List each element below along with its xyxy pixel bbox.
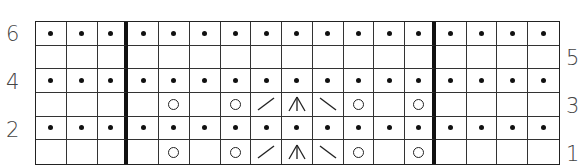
chart-cell — [436, 140, 467, 164]
chart-grid — [35, 21, 560, 165]
chart-cell — [528, 46, 559, 70]
purl-dot-icon — [141, 125, 146, 130]
purl-dot-icon — [356, 125, 361, 130]
purl-dot-icon — [108, 125, 113, 130]
purl-dot-icon — [325, 31, 330, 36]
purl-dot-icon — [48, 31, 53, 36]
purl-dot-icon — [541, 78, 546, 83]
chart-cell — [405, 69, 436, 93]
yarn-over-circle-icon — [230, 99, 241, 110]
chart-cell — [374, 69, 405, 93]
chart-cell — [497, 140, 528, 164]
chart-cell — [36, 93, 67, 117]
chart-cell — [190, 93, 221, 117]
purl-dot-icon — [448, 31, 453, 36]
chart-cell — [128, 117, 159, 141]
purl-dot-icon — [79, 78, 84, 83]
purl-dot-icon — [79, 125, 84, 130]
purl-dot-icon — [541, 125, 546, 130]
purl-dot-icon — [171, 78, 176, 83]
purl-dot-icon — [202, 31, 207, 36]
chart-cell — [528, 140, 559, 164]
chart-cell — [67, 22, 98, 46]
chart-cell — [98, 69, 129, 93]
row-label-6: 6 — [6, 24, 19, 45]
purl-dot-icon — [510, 78, 515, 83]
purl-dot-icon — [171, 31, 176, 36]
chart-cell — [282, 93, 313, 117]
chart-cell — [313, 140, 344, 164]
chart-cell — [36, 22, 67, 46]
chart-cell — [405, 22, 436, 46]
double-decrease-icon — [287, 144, 307, 160]
chart-cell — [528, 93, 559, 117]
purl-dot-icon — [108, 78, 113, 83]
chart-cell — [313, 117, 344, 141]
row-label-3: 3 — [566, 96, 579, 117]
chart-cell — [159, 69, 190, 93]
chart-cell — [374, 93, 405, 117]
purl-dot-icon — [356, 31, 361, 36]
chart-cell — [98, 22, 129, 46]
chart-cell — [159, 117, 190, 141]
yarn-over-circle-icon — [230, 147, 241, 158]
double-decrease-icon — [287, 96, 307, 112]
chart-cell — [497, 117, 528, 141]
purl-dot-icon — [325, 125, 330, 130]
chart-cell — [251, 46, 282, 70]
purl-dot-icon — [356, 78, 361, 83]
chart-cell — [251, 117, 282, 141]
chart-cell — [67, 117, 98, 141]
purl-dot-icon — [294, 78, 299, 83]
chart-cell — [436, 69, 467, 93]
purl-dot-icon — [108, 31, 113, 36]
chart-cell — [374, 117, 405, 141]
chart-cell — [128, 46, 159, 70]
chart-cell — [159, 22, 190, 46]
purl-dot-icon — [479, 31, 484, 36]
chart-cell — [128, 140, 159, 164]
chart-cell — [528, 117, 559, 141]
chart-cell — [344, 22, 375, 46]
chart-cell — [190, 69, 221, 93]
yarn-over-circle-icon — [168, 147, 179, 158]
chart-cell — [190, 46, 221, 70]
chart-cell — [467, 117, 498, 141]
chart-cell — [98, 93, 129, 117]
chart-cell — [497, 93, 528, 117]
chart-cell — [36, 140, 67, 164]
chart-cell — [98, 117, 129, 141]
chart-cell — [282, 140, 313, 164]
chart-cell — [497, 46, 528, 70]
knitting-chart — [35, 21, 560, 165]
purl-dot-icon — [264, 78, 269, 83]
purl-dot-icon — [48, 125, 53, 130]
chart-cell — [467, 69, 498, 93]
yarn-over-circle-icon — [413, 99, 424, 110]
purl-dot-icon — [141, 78, 146, 83]
chart-cell — [251, 93, 282, 117]
purl-dot-icon — [141, 31, 146, 36]
chart-cell — [374, 46, 405, 70]
purl-dot-icon — [171, 125, 176, 130]
purl-dot-icon — [264, 125, 269, 130]
chart-cell — [405, 140, 436, 164]
chart-cell — [98, 140, 129, 164]
chart-cell — [467, 140, 498, 164]
chart-cell — [159, 140, 190, 164]
chart-cell — [251, 140, 282, 164]
chart-cell — [159, 93, 190, 117]
chart-cell — [344, 69, 375, 93]
ssk-slash-icon — [318, 96, 338, 112]
chart-cell — [436, 93, 467, 117]
chart-cell — [67, 46, 98, 70]
chart-cell — [344, 140, 375, 164]
purl-dot-icon — [325, 78, 330, 83]
purl-dot-icon — [387, 78, 392, 83]
chart-cell — [313, 69, 344, 93]
chart-cell — [36, 69, 67, 93]
chart-cell — [282, 117, 313, 141]
yarn-over-circle-icon — [353, 99, 364, 110]
chart-cell — [497, 22, 528, 46]
ssk-slash-icon — [318, 144, 338, 160]
